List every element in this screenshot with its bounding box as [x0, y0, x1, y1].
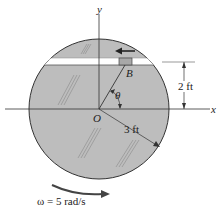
- diagram-graphics: [0, 0, 223, 212]
- origin-label: O: [93, 113, 101, 124]
- omega-label: ω = 5 rad/s: [37, 196, 86, 207]
- rotating-disk-diagram: y x O B θ 2 ft 3 ft ω = 5 rad/s: [0, 0, 223, 212]
- height-label: 2 ft: [178, 81, 193, 92]
- omega-arrow: [52, 185, 103, 194]
- y-axis-label: y: [97, 4, 102, 15]
- theta-label: θ: [115, 90, 120, 101]
- x-axis-label: x: [211, 104, 216, 115]
- slot: [20, 58, 190, 65]
- point-b-label: B: [126, 68, 133, 79]
- rotation-arrow-icon: [101, 190, 110, 198]
- block-b: [119, 58, 132, 65]
- radius-label: 3 ft: [124, 124, 139, 135]
